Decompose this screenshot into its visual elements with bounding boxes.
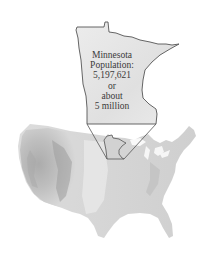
population-label: Population: bbox=[84, 60, 140, 70]
state-name: Minnesota bbox=[84, 50, 140, 60]
approx-prefix: about bbox=[84, 91, 140, 101]
connector-word: or bbox=[84, 81, 140, 91]
us-relief-map bbox=[0, 0, 209, 256]
approx-value: 5 million bbox=[84, 101, 140, 111]
minnesota-callout-label: Minnesota Population: 5,197,621 or about… bbox=[84, 50, 140, 111]
population-value: 5,197,621 bbox=[84, 70, 140, 80]
minnesota-population-figure: Minnesota Population: 5,197,621 or about… bbox=[0, 0, 209, 256]
